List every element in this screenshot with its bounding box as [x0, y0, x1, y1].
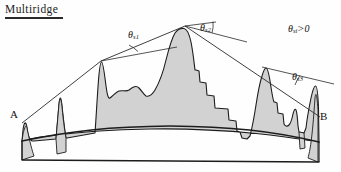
base-sliver-right-inner	[299, 132, 305, 149]
angle-label-theta-s2: θs2	[200, 22, 211, 33]
base-sliver-left	[22, 126, 34, 160]
angle-ray-s1	[101, 47, 177, 61]
angle-label-theta-s1: θs1	[128, 29, 139, 40]
theta-subscript-s2: s2	[205, 26, 211, 33]
theta-subscript-s1: s1	[133, 33, 139, 40]
base-sliver-left-inner	[56, 99, 66, 154]
angle-ray-s2-lower	[185, 26, 247, 42]
endpoint-label-b: B	[320, 110, 327, 122]
angle-arc-s2	[212, 22, 213, 33]
figure-screenshot: Multiridge A B θs1 θs2 θ	[0, 0, 341, 172]
condition-value: 0	[304, 23, 309, 34]
theta-subscript-s3: s3	[297, 75, 303, 82]
terrain-silhouette	[22, 28, 319, 142]
chord-baseline	[22, 160, 319, 162]
positivity-condition-label: θsi>0	[288, 22, 309, 34]
angle-label-theta-s3: θs3	[292, 71, 303, 82]
endpoint-label-a: A	[10, 108, 18, 120]
